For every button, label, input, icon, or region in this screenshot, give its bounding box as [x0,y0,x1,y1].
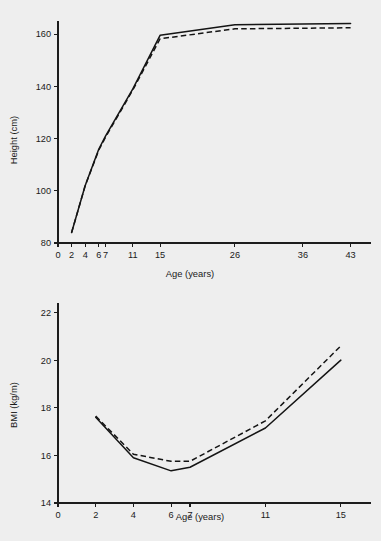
bmi-chart-svg: 1416182022 024671115 Age (years) BMI (kg… [0,285,381,541]
bmi-chart-panel: 1416182022 024671115 Age (years) BMI (kg… [0,285,381,541]
height-chart-svg: 80100120140160 024671115263643 Age (year… [0,0,381,285]
x-tick-label: 2 [93,510,98,520]
bmi-series-dashed-line [96,346,341,461]
y-tick-label: 16 [41,451,51,461]
y-tick-label: 20 [41,356,51,366]
x-tick-label: 4 [131,510,136,520]
figure-page: 80100120140160 024671115263643 Age (year… [0,0,381,541]
y-tick-label: 80 [41,238,51,248]
height-series-dashed-line [72,28,351,233]
height-y-ticks: 80100120140160 [36,29,58,248]
bmi-x-axis-title: Age (years) [176,511,224,522]
y-tick-label: 22 [41,308,51,318]
x-tick-label: 43 [345,250,355,260]
bmi-chart-series [96,346,341,471]
x-tick-label: 7 [103,250,108,260]
bmi-y-ticks: 1416182022 [41,308,58,508]
height-chart-axes: 80100120140160 024671115263643 [36,21,371,260]
x-tick-label: 0 [55,510,60,520]
bmi-y-axis-title: BMI (kg/m) [8,382,19,428]
x-tick-label: 2 [69,250,74,260]
y-tick-label: 18 [41,403,51,413]
x-tick-label: 11 [261,510,271,520]
y-tick-label: 160 [36,29,51,39]
height-y-axis-title: Height (cm) [8,116,19,164]
x-tick-label: 6 [96,250,101,260]
x-tick-label: 15 [336,510,346,520]
x-tick-label: 0 [55,250,60,260]
bmi-chart-axes: 1416182022 024671115 [41,303,371,520]
height-x-ticks: 024671115263643 [55,243,355,260]
y-tick-label: 14 [41,498,51,508]
height-chart-series [72,24,351,233]
x-tick-label: 26 [230,250,240,260]
y-tick-label: 100 [36,186,51,196]
x-tick-label: 11 [128,250,138,260]
height-series-solid-line [72,24,351,233]
x-tick-label: 36 [298,250,308,260]
x-tick-label: 6 [169,510,174,520]
y-tick-label: 120 [36,134,51,144]
height-chart-panel: 80100120140160 024671115263643 Age (year… [0,0,381,285]
x-tick-label: 15 [155,250,165,260]
height-x-axis-title: Age (years) [166,268,214,279]
y-tick-label: 140 [36,82,51,92]
x-tick-label: 4 [83,250,88,260]
